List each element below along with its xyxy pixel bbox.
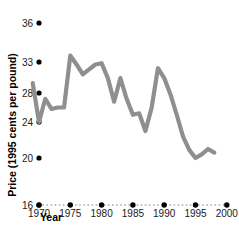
grid-dot: [42, 204, 44, 206]
grid-dot: [149, 204, 151, 206]
x-tick-label: 2000: [216, 208, 239, 219]
x-tick-label: 1990: [153, 208, 176, 219]
y-tick-label: 20: [22, 153, 34, 164]
grid-dot: [145, 204, 147, 206]
x-axis-title: Year: [40, 211, 62, 223]
grid-dot: [214, 204, 216, 206]
grid-dot: [63, 204, 65, 206]
y-axis-title: Price (1995 cents per pound): [6, 53, 18, 197]
grid-dot: [128, 204, 130, 206]
line-chart: 162024283336 197019751980198519901995200…: [0, 0, 239, 237]
grid-dot: [202, 204, 204, 206]
y-tick-label: 24: [22, 117, 34, 128]
y-axis-tick-labels: 162024283336: [22, 18, 34, 211]
grid-dot: [59, 204, 61, 206]
grid-dot: [186, 204, 188, 206]
x-axis-tick-dots: [36, 202, 229, 207]
x-tick-label: 1975: [59, 208, 82, 219]
chart-container: 162024283336 197019751980198519901995200…: [0, 0, 239, 237]
y-tick-dot: [36, 20, 41, 25]
grid-dot: [54, 204, 56, 206]
grid-dot: [79, 204, 81, 206]
grid-dot: [206, 204, 208, 206]
grid-dot: [46, 204, 48, 206]
grid-dot: [141, 204, 143, 206]
x-tick-label: 1985: [122, 208, 145, 219]
grid-dot: [75, 204, 77, 206]
y-tick-dot: [36, 155, 41, 160]
grid-dot: [210, 204, 212, 206]
grid-dot: [177, 204, 179, 206]
grid-dot: [95, 204, 97, 206]
x-tick-dot: [68, 202, 73, 207]
grid-dot: [173, 204, 175, 206]
grid-dot: [87, 204, 89, 206]
grid-dot: [91, 204, 93, 206]
grid-dot: [124, 204, 126, 206]
grid-dot: [83, 204, 85, 206]
x-tick-dot: [130, 202, 135, 207]
x-tick-dot: [99, 202, 104, 207]
x-tick-dot: [224, 202, 229, 207]
y-tick-dot: [36, 59, 41, 64]
grid-dot: [157, 204, 159, 206]
grid-dot: [198, 204, 200, 206]
y-tick-dot: [36, 90, 41, 95]
grid-dot: [182, 204, 184, 206]
grid-dot: [136, 204, 138, 206]
x-tick-dot: [193, 202, 198, 207]
y-tick-label: 33: [22, 57, 34, 68]
grid-dot: [218, 204, 220, 206]
x-tick-dot: [162, 202, 167, 207]
x-tick-label: 1995: [184, 208, 207, 219]
grid-dot: [116, 204, 118, 206]
x-tick-dot: [36, 202, 41, 207]
y-tick-label: 36: [22, 18, 34, 29]
grid-dot: [169, 204, 171, 206]
price-line-series: [33, 56, 215, 159]
grid-dot: [120, 204, 122, 206]
grid-dot: [153, 204, 155, 206]
grid-dot: [190, 204, 192, 206]
x-tick-label: 1980: [90, 208, 113, 219]
grid-dot: [108, 204, 110, 206]
grid-dot: [112, 204, 114, 206]
grid-dot: [50, 204, 52, 206]
